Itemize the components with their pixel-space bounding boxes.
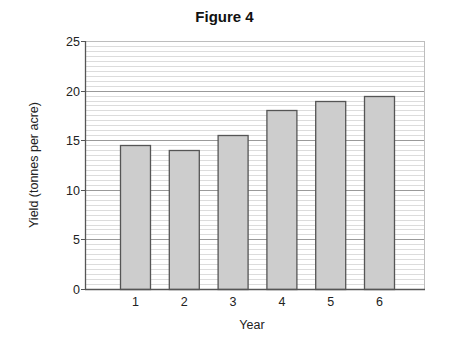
bar-year-6 bbox=[365, 97, 395, 290]
y-tick-label: 10 bbox=[66, 184, 80, 198]
y-tick-label: 0 bbox=[73, 283, 80, 297]
x-tick-label: 1 bbox=[132, 295, 139, 309]
y-tick-label: 15 bbox=[66, 134, 80, 148]
x-axis-ticks: 123456 bbox=[132, 295, 383, 309]
x-tick-label: 4 bbox=[278, 295, 285, 309]
x-axis-label: Year bbox=[239, 318, 264, 332]
bar-chart: 0510152025 123456 bbox=[0, 0, 449, 352]
y-axis-ticks: 0510152025 bbox=[66, 35, 85, 297]
bar-year-5 bbox=[316, 102, 346, 290]
x-tick-label: 5 bbox=[327, 295, 334, 309]
y-tick-label: 20 bbox=[66, 85, 80, 99]
y-tick-label: 5 bbox=[73, 233, 80, 247]
bar-year-2 bbox=[169, 151, 199, 290]
bar-year-4 bbox=[267, 111, 297, 290]
x-tick-label: 3 bbox=[230, 295, 237, 309]
x-tick-label: 2 bbox=[181, 295, 188, 309]
y-axis-label: Yield (tonnes per acre) bbox=[27, 102, 41, 228]
bar-year-1 bbox=[121, 146, 151, 290]
bar-year-3 bbox=[218, 136, 248, 290]
x-tick-label: 6 bbox=[376, 295, 383, 309]
y-tick-label: 25 bbox=[66, 35, 80, 49]
